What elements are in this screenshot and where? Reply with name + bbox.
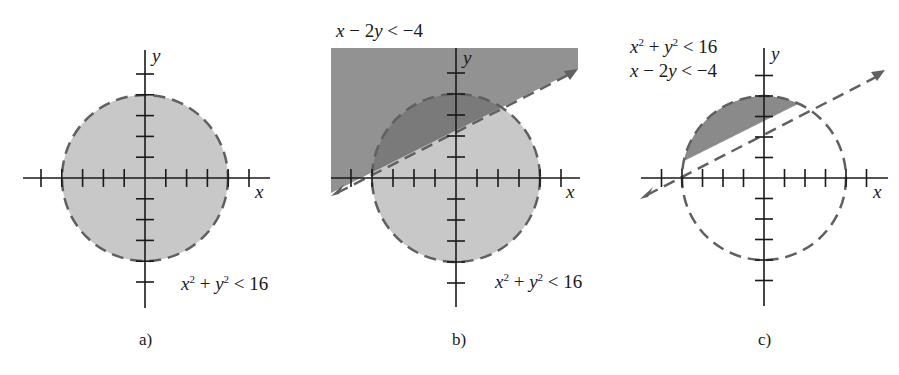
panel-c: x y x2 + y2 < 16 x − 2y < −4 c)	[0, 0, 899, 375]
panel-c-graph	[0, 0, 899, 330]
line-inequality-label: x − 2y < −4	[630, 61, 717, 80]
y-axis-label: y	[771, 44, 779, 63]
caption-c: c)	[758, 330, 771, 350]
axes	[641, 48, 888, 306]
circle-inequality-label: x2 + y2 < 16	[630, 37, 717, 56]
x-axis-label: x	[873, 182, 881, 201]
